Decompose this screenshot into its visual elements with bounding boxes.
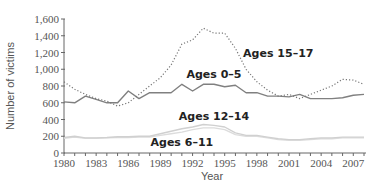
x-tick-label: 2001 <box>278 157 300 169</box>
line-chart: 02004006008001,0001,2001,4001,600 198019… <box>0 0 380 188</box>
series-label: Ages 12–14 <box>179 110 250 123</box>
x-axis: 1980198319861989199219951998200120042007 <box>53 153 366 169</box>
y-tick-label: 1,000 <box>34 63 59 75</box>
y-axis: 02004006008001,0001,2001,4001,600 <box>34 13 65 159</box>
series-line <box>64 125 364 140</box>
x-tick-label: 1983 <box>85 157 108 169</box>
x-tick-label: 1998 <box>246 157 269 169</box>
y-tick-label: 1,200 <box>34 47 59 59</box>
y-tick-label: 800 <box>43 80 60 92</box>
x-tick-label: 2004 <box>310 157 333 169</box>
series-labels: Ages 15–17Ages 0–5Ages 12–14Ages 6–11 <box>151 47 314 150</box>
series-layer <box>64 28 364 140</box>
x-tick-label: 2007 <box>342 157 365 169</box>
x-tick-label: 1980 <box>53 157 76 169</box>
series-line <box>64 84 364 103</box>
x-axis-title: Year <box>201 170 224 182</box>
x-tick-label: 1989 <box>149 157 172 169</box>
series-label: Ages 0–5 <box>186 68 241 81</box>
y-axis-title: Number of victims <box>4 41 16 130</box>
y-tick-label: 1,400 <box>34 30 59 42</box>
y-tick-label: 400 <box>43 114 60 126</box>
y-tick-label: 200 <box>43 130 60 142</box>
y-tick-label: 600 <box>43 97 60 109</box>
series-label: Ages 6–11 <box>151 136 214 149</box>
x-tick-label: 1995 <box>214 157 237 169</box>
x-tick-label: 1992 <box>182 157 204 169</box>
series-label: Ages 15–17 <box>243 47 313 60</box>
x-tick-label: 1986 <box>117 157 140 169</box>
y-tick-label: 1,600 <box>34 13 59 25</box>
